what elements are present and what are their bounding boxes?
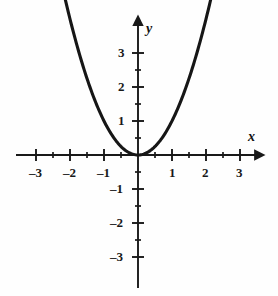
x-axis-label: x bbox=[248, 130, 255, 144]
parabola-figure: –3 –2 –1 1 2 3 3 2 1 –1 –2 –3 y x bbox=[0, 0, 278, 296]
y-tick-label--2: –2 bbox=[110, 216, 123, 229]
plot-canvas bbox=[0, 0, 278, 296]
y-tick-label--3: –3 bbox=[110, 250, 123, 263]
x-tick-label--3: –3 bbox=[29, 166, 42, 179]
y-axis-label: y bbox=[146, 22, 152, 36]
y-tick-label-2: 2 bbox=[118, 80, 125, 93]
y-tick-label-3: 3 bbox=[118, 46, 125, 59]
x-tick-label-2: 2 bbox=[202, 166, 209, 179]
y-tick-label--1: –1 bbox=[110, 182, 123, 195]
x-tick-label-1: 1 bbox=[169, 166, 176, 179]
x-tick-label--1: –1 bbox=[97, 166, 110, 179]
y-tick-label-1: 1 bbox=[118, 114, 125, 127]
x-tick-label--2: –2 bbox=[63, 166, 76, 179]
x-tick-label-3: 3 bbox=[236, 166, 243, 179]
